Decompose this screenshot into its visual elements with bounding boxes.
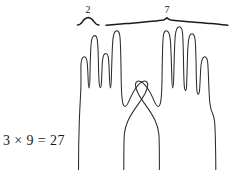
left-hand-group xyxy=(79,31,148,170)
left-brace-group: 2 xyxy=(78,4,100,25)
right-brace-label: 7 xyxy=(165,4,170,15)
left-brace-icon xyxy=(78,18,100,25)
left-hand-outline xyxy=(79,31,148,170)
right-brace-icon xyxy=(106,18,228,26)
right-hand-outline xyxy=(135,27,215,170)
equation-text: 3 × 9 = 27 xyxy=(3,133,65,148)
left-brace-label: 2 xyxy=(86,4,91,15)
finger-multiplication-figure: 2 7 3 × 9 = 27 xyxy=(0,0,231,170)
right-hand-group xyxy=(135,27,215,170)
right-brace-group: 7 xyxy=(106,4,228,25)
diagram-canvas: 2 7 3 × 9 = 27 xyxy=(0,0,231,170)
